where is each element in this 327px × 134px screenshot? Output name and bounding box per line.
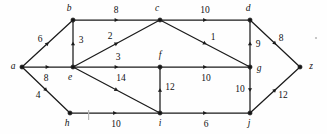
node-label-c: c <box>155 3 160 13</box>
arrow-head-icon <box>203 18 207 22</box>
edge-weight-g-d: 9 <box>256 39 261 49</box>
edge-weight-e-i: 14 <box>116 73 126 83</box>
edge-weight-i-j: 6 <box>204 119 209 129</box>
graph-node-h <box>68 111 72 115</box>
arrow-head-icon <box>248 42 252 46</box>
node-label-z: z <box>308 61 313 71</box>
arrow-head-icon <box>115 18 119 22</box>
node-label-b: b <box>67 3 72 13</box>
edge-weight-e-c: 2 <box>108 31 113 41</box>
graph-node-e <box>71 65 75 69</box>
graph-node-f <box>158 65 162 69</box>
edge-weight-b-c: 8 <box>114 5 119 15</box>
node-label-i: i <box>159 118 162 128</box>
edge-weight-g-j: 10 <box>235 84 245 94</box>
arrow-head-icon <box>248 88 252 92</box>
edge-weight-d-z: 8 <box>279 33 284 43</box>
edge-weight-h-i: 10 <box>111 119 121 129</box>
node-label-h: h <box>65 118 70 128</box>
graph-node-g <box>248 65 252 69</box>
node-label-f: f <box>159 50 163 60</box>
node-label-a: a <box>11 61 16 71</box>
edge-weight-e-b: 3 <box>79 35 84 45</box>
graph-node-z <box>298 65 302 69</box>
graph-node-c <box>158 18 162 22</box>
edge-weight-a-e: 8 <box>44 73 49 83</box>
arrow-head-icon <box>203 65 207 69</box>
node-label-d: d <box>246 3 251 13</box>
graph-node-i <box>158 111 162 115</box>
edge-weight-c-g: 1 <box>211 32 216 42</box>
node-label-g: g <box>257 63 262 73</box>
edge-weight-e-f: 3 <box>116 52 121 62</box>
graph-figure: abcdefghijz 6843823141019810121010612 <box>0 0 327 134</box>
arrow-head-icon <box>71 42 75 46</box>
edge-weight-a-h: 4 <box>36 90 41 100</box>
edge-weight-i-f: 12 <box>165 82 175 92</box>
node-label-e: e <box>68 72 72 82</box>
graph-node-d <box>248 18 252 22</box>
edge-weight-f-g: 10 <box>201 73 211 83</box>
node-label-j: j <box>246 118 251 128</box>
nodes-layer: abcdefghijz <box>11 3 314 128</box>
arrow-head-icon <box>46 65 50 69</box>
arrow-head-icon <box>158 88 162 92</box>
graph-node-b <box>71 18 75 22</box>
edge-weight-j-z: 12 <box>278 90 288 100</box>
graph-node-j <box>248 111 252 115</box>
edge-weight-c-d: 10 <box>200 5 210 15</box>
arrow-head-icon <box>113 111 117 115</box>
scan-speck <box>88 110 89 120</box>
arrow-head-icon <box>115 65 119 69</box>
graph-node-a <box>20 65 24 69</box>
scan-speck <box>315 37 317 39</box>
graph-diagram-canvas: abcdefghijz 6843823141019810121010612 <box>0 0 327 134</box>
arrow-head-icon <box>203 111 207 115</box>
edge-weight-a-b: 6 <box>38 34 43 44</box>
